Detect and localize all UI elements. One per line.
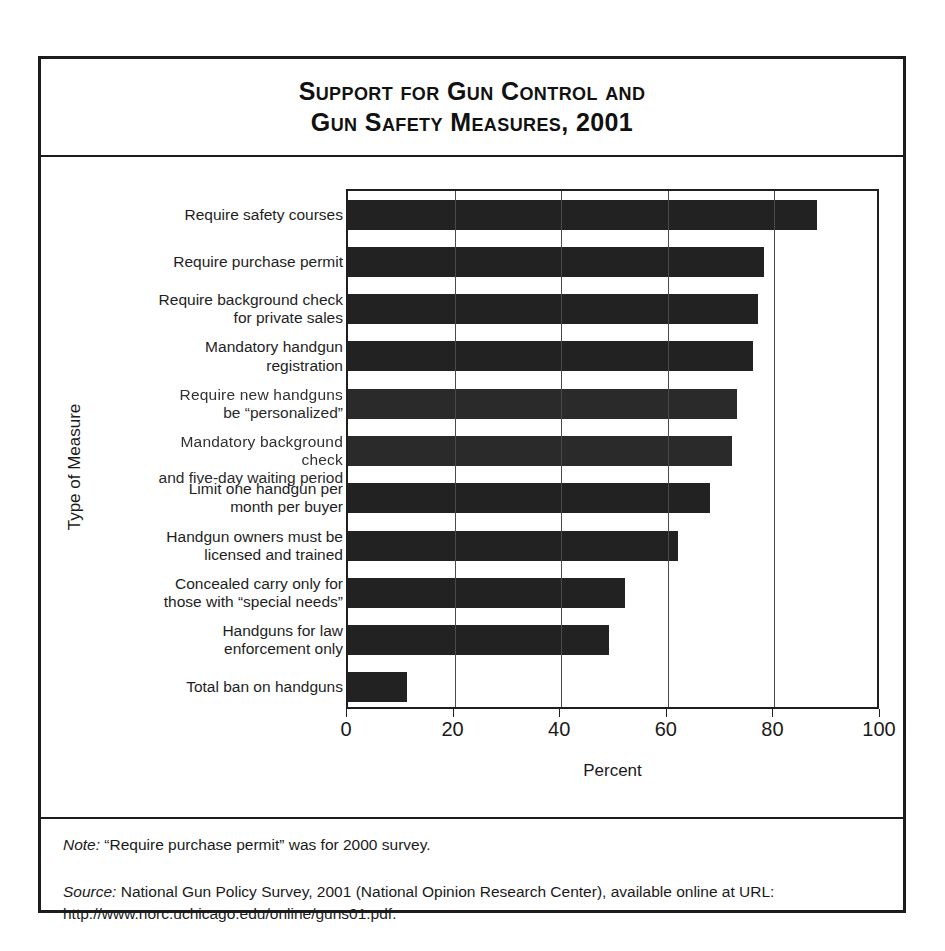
gridline-60 — [668, 191, 669, 707]
bar — [348, 247, 764, 277]
x-axis-title: Percent — [346, 761, 879, 781]
source-row: Source: National Gun Policy Survey, 2001… — [63, 881, 887, 924]
category-label: Concealed carry only for those with “spe… — [151, 575, 343, 611]
category-label: Mandatory background checkand five-day w… — [151, 433, 343, 487]
x-tick-label: 0 — [340, 718, 351, 741]
bar — [348, 389, 737, 419]
gridline-80 — [774, 191, 775, 707]
x-tick-mark — [559, 709, 560, 717]
chart-body: Type of Measure Require safety coursesRe… — [41, 157, 903, 817]
category-label: Handguns for law enforcement only — [151, 622, 343, 658]
bar — [348, 578, 625, 608]
gridline-40 — [561, 191, 562, 707]
gridline-20 — [455, 191, 456, 707]
category-label: Require new handgunsbe “personalized” — [151, 386, 343, 422]
bar — [348, 672, 407, 702]
x-tick-label: 20 — [441, 718, 463, 741]
category-label: Total ban on handguns — [151, 678, 343, 696]
category-label: Require background check for private sal… — [151, 291, 343, 327]
source-label: Source: — [63, 883, 116, 900]
note-row: Note: “Require purchase permit” was for … — [63, 835, 887, 856]
bar — [348, 200, 817, 230]
category-label-line: Mandatory background check — [180, 433, 343, 468]
note-text: “Require purchase permit” was for 2000 s… — [100, 836, 431, 853]
figure-frame: Support for Gun Control and Gun Safety M… — [38, 56, 906, 913]
category-label: Mandatory handgun registration — [151, 338, 343, 374]
x-tick-label: 80 — [761, 718, 783, 741]
source-text: National Gun Policy Survey, 2001 (Nation… — [63, 883, 774, 922]
bars-layer — [348, 191, 877, 707]
note-label: Note: — [63, 836, 100, 853]
category-label: Require purchase permit — [151, 253, 343, 271]
bar — [348, 341, 753, 371]
bar — [348, 294, 758, 324]
x-tick-label: 60 — [655, 718, 677, 741]
category-label: Limit one handgun per month per buyer — [151, 480, 343, 516]
x-tick-mark — [879, 709, 880, 717]
figure-title-band: Support for Gun Control and Gun Safety M… — [41, 59, 903, 157]
x-tick-label: 40 — [548, 718, 570, 741]
category-label: Require safety courses — [151, 206, 343, 224]
x-tick-label: 100 — [862, 718, 895, 741]
bar — [348, 531, 678, 561]
x-tick-mark — [666, 709, 667, 717]
bar — [348, 483, 710, 513]
plot-area — [346, 189, 879, 709]
x-tick-mark — [453, 709, 454, 717]
figure-title-line-1: Support for Gun Control and — [299, 76, 646, 108]
notes-divider — [41, 817, 903, 819]
category-label-column: Require safety coursesRequire purchase p… — [151, 191, 343, 707]
x-tick-mark — [772, 709, 773, 717]
category-label-line: Require new handguns — [180, 386, 343, 403]
category-label: Handgun owners must be licensed and trai… — [151, 528, 343, 564]
category-label-line: be “personalized” — [223, 404, 343, 421]
figure-title-line-2: Gun Safety Measures, 2001 — [311, 107, 633, 139]
bar — [348, 436, 732, 466]
x-tick-mark — [346, 709, 347, 717]
x-axis: 020406080100 — [346, 709, 879, 749]
y-axis-title: Type of Measure — [65, 387, 85, 547]
bar — [348, 625, 609, 655]
